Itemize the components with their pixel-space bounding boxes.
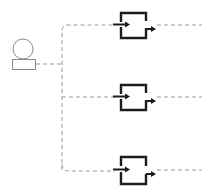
diagram-canvas: [0, 0, 202, 191]
process-box-icon: [113, 13, 156, 38]
user-icon: [13, 39, 36, 70]
user-head: [13, 39, 33, 59]
process-box-icon: [113, 157, 156, 184]
flow-diagram: [0, 0, 202, 191]
user-body: [13, 60, 36, 70]
process-box-icon: [113, 85, 156, 110]
bottom-branch-connector: [62, 164, 115, 171]
